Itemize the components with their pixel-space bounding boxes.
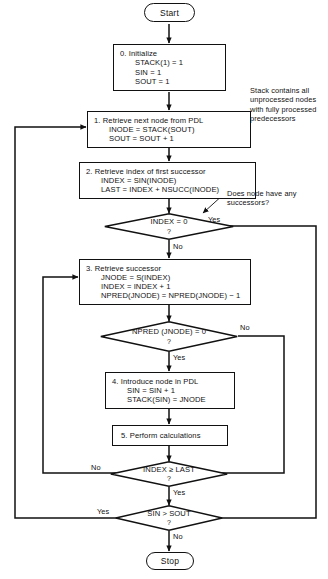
successors-annotation: Does node have any successors? bbox=[227, 189, 328, 208]
decision-3-question: ? bbox=[167, 475, 171, 482]
step-0-line-2: SIN = 1 bbox=[120, 68, 220, 77]
decision-4-text: SIN > SOUT bbox=[147, 510, 190, 518]
decision-2-question: ? bbox=[167, 338, 171, 345]
step-5-title: 5. Perform calculations bbox=[119, 431, 222, 440]
step-0-initialize: 0. Initialize STACK(1) = 1 SIN = 1 SOUT … bbox=[113, 44, 226, 91]
step-2-line-1: INDEX = SIN(INODE) bbox=[86, 176, 250, 185]
step-1-retrieve-next-node: 1. Retrieve next node from PDL INODE = S… bbox=[87, 111, 251, 148]
step-4-line-1: SIN = SIN + 1 bbox=[112, 386, 229, 395]
step-3-title: 3. Retrieve successor bbox=[86, 264, 245, 273]
branch-d4-yes: Yes bbox=[97, 507, 109, 516]
step-0-line-1: STACK(1) = 1 bbox=[120, 58, 220, 67]
flowchart-canvas: Start 0. Initialize STACK(1) = 1 SIN = 1… bbox=[0, 0, 328, 579]
branch-d3-yes: Yes bbox=[173, 488, 185, 497]
stop-label: Stop bbox=[161, 556, 179, 566]
step-1-line-2: SOUT = SOUT + 1 bbox=[94, 134, 245, 143]
branch-d3-no: No bbox=[91, 463, 101, 472]
step-3-line-1: JNODE = S(INDEX) bbox=[86, 273, 245, 282]
step-5-perform-calculations: 5. Perform calculations bbox=[112, 425, 228, 446]
step-4-line-2: STACK(SIN) = JNODE bbox=[112, 395, 229, 404]
decision-4-label-group: SIN > SOUT ? bbox=[115, 505, 223, 531]
step-4-title: 4. Introduce node in PDL bbox=[112, 377, 229, 386]
branch-d2-yes: Yes bbox=[173, 353, 185, 362]
stack-annotation: Stack contains all unprocessed nodes wit… bbox=[250, 86, 328, 123]
decision-npred-equals-zero: NPRED (JNODE) = 0 ? bbox=[100, 321, 238, 352]
step-2-line-2: LAST = INDEX + NSUCC(INODE) bbox=[86, 185, 250, 194]
decision-index-ge-last: INDEX ≥ LAST ? bbox=[110, 461, 228, 487]
decision-3-text: INDEX ≥ LAST bbox=[143, 466, 195, 474]
decision-2-label-group: NPRED (JNODE) = 0 ? bbox=[100, 321, 238, 352]
branch-d4-no: No bbox=[173, 532, 183, 541]
decision-4-question: ? bbox=[167, 519, 171, 526]
step-3-retrieve-successor: 3. Retrieve successor JNODE = S(INDEX) I… bbox=[79, 259, 251, 305]
branch-d1-yes: Yes bbox=[208, 215, 220, 224]
step-1-title: 1. Retrieve next node from PDL bbox=[94, 116, 245, 125]
step-4-introduce-node-in-pdl: 4. Introduce node in PDL SIN = SIN + 1 S… bbox=[105, 372, 235, 409]
decision-2-text: NPRED (JNODE) = 0 bbox=[132, 328, 206, 336]
start-terminator: Start bbox=[144, 3, 195, 22]
step-0-line-3: SOUT = 1 bbox=[120, 77, 220, 86]
branch-d1-no: No bbox=[173, 242, 183, 251]
decision-3-label-group: INDEX ≥ LAST ? bbox=[110, 461, 228, 487]
decision-1-question: ? bbox=[167, 228, 171, 235]
decision-sin-gt-sout: SIN > SOUT ? bbox=[115, 505, 223, 531]
branch-d2-no: No bbox=[240, 323, 250, 332]
step-3-line-2: INDEX = INDEX + 1 bbox=[86, 282, 245, 291]
step-1-line-1: INODE = STACK(SOUT) bbox=[94, 125, 245, 134]
step-0-title: 0. Initialize bbox=[120, 49, 220, 58]
step-3-line-3: NPRED(JNODE) = NPRED(JNODE) − 1 bbox=[86, 291, 245, 300]
stop-terminator: Stop bbox=[146, 552, 194, 570]
decision-1-text: INDEX = 0 bbox=[151, 218, 188, 226]
step-2-title: 2. Retrieve index of first successor bbox=[86, 167, 250, 176]
start-label: Start bbox=[160, 8, 179, 18]
